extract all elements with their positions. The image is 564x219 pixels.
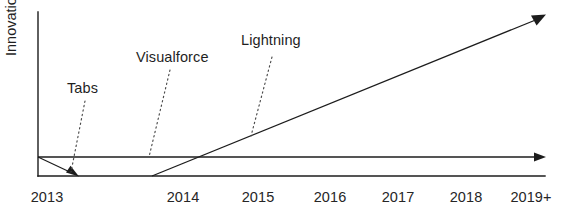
x-tick-label-2017: 2017 (368, 190, 428, 205)
chart-canvas: Innovation Tabs Visualforce Lightning 20… (0, 0, 564, 219)
x-tick-label-2013: 2013 (17, 190, 77, 205)
x-tick-label-2016: 2016 (300, 190, 360, 205)
rising-trend-arrowhead-icon (531, 15, 546, 26)
y-axis-title: Innovation (4, 38, 19, 56)
x-tick-label-2015: 2015 (228, 190, 288, 205)
x-tick-label-2019-plus: 2019+ (500, 190, 562, 205)
declining-trend-line (38, 157, 72, 173)
lightning-leader-line (251, 57, 272, 136)
x-tick-label-2014: 2014 (153, 190, 213, 205)
annotation-label-lightning: Lightning (241, 33, 301, 48)
flat-trend-arrowhead-icon (534, 152, 546, 161)
visualforce-leader-line (149, 70, 170, 157)
annotation-label-tabs: Tabs (67, 81, 98, 96)
declining-trend-arrowhead-icon (66, 166, 79, 177)
rising-trend-line (152, 19, 538, 176)
annotation-label-visualforce: Visualforce (136, 50, 209, 65)
tabs-leader-line (71, 101, 85, 172)
x-tick-label-2018: 2018 (436, 190, 496, 205)
